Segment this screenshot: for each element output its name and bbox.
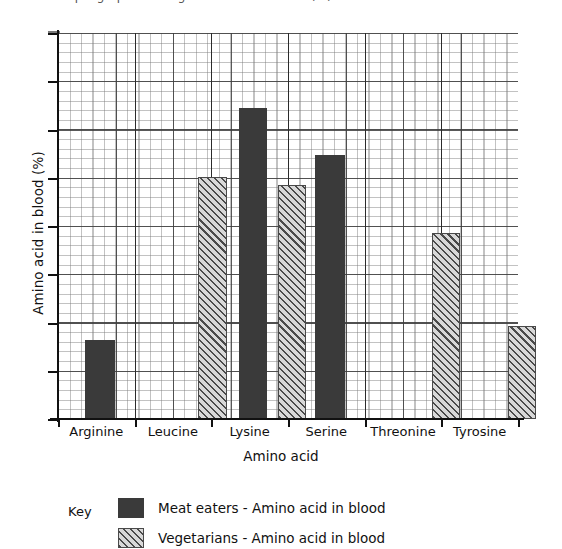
x-axis-tick <box>518 418 520 427</box>
x-axis-spine <box>50 418 524 420</box>
legend-swatch-solid-icon <box>118 498 144 518</box>
bar-chart-figure: Amino acid in blood (%) ArginineLeucineL… <box>0 0 562 549</box>
y-axis-tick <box>48 371 58 373</box>
x-axis-category-label: Arginine <box>58 424 135 439</box>
legend-entry-vegetarians: Vegetarians - Amino acid in blood <box>118 528 385 548</box>
legend-key-word: Key <box>68 504 92 519</box>
x-axis-category-label: Tyrosine <box>441 424 518 439</box>
y-axis-tick <box>48 419 58 421</box>
plot-area <box>58 33 518 419</box>
category-separator-line <box>135 33 136 419</box>
bar-serine-meat-eaters <box>315 155 345 419</box>
y-axis-tick <box>48 81 58 83</box>
y-axis-tick <box>48 130 58 132</box>
x-axis-category-label: Lysine <box>211 424 288 439</box>
legend-label-meat-eaters: Meat eaters - Amino acid in blood <box>158 500 386 516</box>
bar-leucine-vegetarians <box>198 177 227 419</box>
y-axis-title: Amino acid in blood (%) <box>30 113 46 353</box>
bar-arginine-meat-eaters <box>85 340 115 419</box>
bar-tyrosine-vegetarians <box>508 326 536 419</box>
category-separator-line <box>365 33 366 419</box>
bar-lysine-meat-eaters <box>239 108 267 419</box>
y-axis-tick <box>48 226 58 228</box>
y-axis-tick <box>48 274 58 276</box>
x-axis-category-label: Threonine <box>365 424 442 439</box>
bar-lysine-vegetarians <box>278 185 306 419</box>
y-axis-tick <box>48 33 58 35</box>
x-axis-title: Amino acid <box>0 448 562 464</box>
x-axis-category-label: Serine <box>288 424 365 439</box>
legend-label-vegetarians: Vegetarians - Amino acid in blood <box>158 530 385 546</box>
legend-entry-meat-eaters: Meat eaters - Amino acid in blood <box>118 498 386 518</box>
y-axis-tick <box>48 323 58 325</box>
bar-threonine-vegetarians <box>432 233 460 419</box>
legend-swatch-hatch-icon <box>118 528 144 548</box>
y-axis-tick <box>48 178 58 180</box>
x-axis-category-label: Leucine <box>135 424 212 439</box>
